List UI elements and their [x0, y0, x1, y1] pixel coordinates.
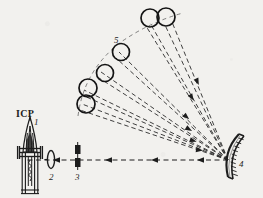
diffracted-ray-bundle — [80, 22, 228, 160]
icp-source-label: ICP — [16, 109, 34, 119]
ray-to-detector-2 — [82, 95, 228, 160]
ray-to-detector-4b — [119, 52, 228, 160]
component-label-5: 5 — [114, 36, 119, 45]
ray-to-detector-1b — [82, 104, 228, 160]
detector-2 — [79, 79, 97, 97]
detector-1 — [77, 95, 95, 113]
detector-array — [77, 8, 175, 113]
ray-to-detector-1 — [80, 110, 228, 160]
ray-to-detector-4 — [116, 58, 228, 160]
component-label-4: 4 — [239, 160, 244, 169]
entrance-slit — [75, 142, 81, 170]
ray-to-detector-5b — [150, 23, 228, 160]
icp-torch — [18, 117, 43, 194]
component-label-2: 2 — [49, 173, 54, 182]
focusing-lens — [45, 151, 58, 169]
schematic-drawing — [0, 0, 263, 198]
detector-3 — [97, 65, 114, 82]
ray-to-detector-6 — [165, 25, 228, 160]
detector-4 — [113, 44, 130, 61]
ray-to-detector-3b — [101, 72, 228, 160]
component-label-1: 1 — [34, 118, 39, 127]
component-label-3: 3 — [75, 173, 80, 182]
figure-canvas: ICP 1 2 3 4 5 — [0, 0, 263, 198]
ray-to-detector-6b — [172, 22, 228, 160]
concave-grating — [226, 134, 244, 179]
